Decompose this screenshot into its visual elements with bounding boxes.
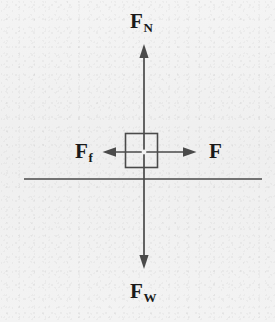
normal-force-arrowhead	[139, 44, 148, 58]
normal-force-subscript: N	[144, 20, 154, 35]
force-diagram-canvas: FN FW Ff F	[0, 0, 275, 322]
applied-force-label: F	[209, 141, 222, 162]
applied-force-symbol: F	[209, 139, 222, 163]
friction-force-arrowhead	[103, 147, 117, 157]
normal-force-label: FN	[130, 11, 153, 32]
application-point	[142, 150, 147, 155]
friction-force-label: Ff	[75, 141, 93, 162]
applied-force-arrowhead	[183, 147, 197, 157]
weight-force-label: FW	[130, 281, 156, 302]
weight-force-symbol: F	[130, 279, 143, 303]
force-diagram-svg	[0, 0, 275, 322]
block-object	[126, 134, 158, 168]
normal-force-symbol: F	[130, 9, 143, 33]
friction-force-symbol: F	[75, 139, 88, 163]
weight-force-subscript: W	[144, 290, 157, 305]
weight-force-arrowhead	[139, 255, 148, 269]
friction-force-subscript: f	[89, 150, 94, 165]
